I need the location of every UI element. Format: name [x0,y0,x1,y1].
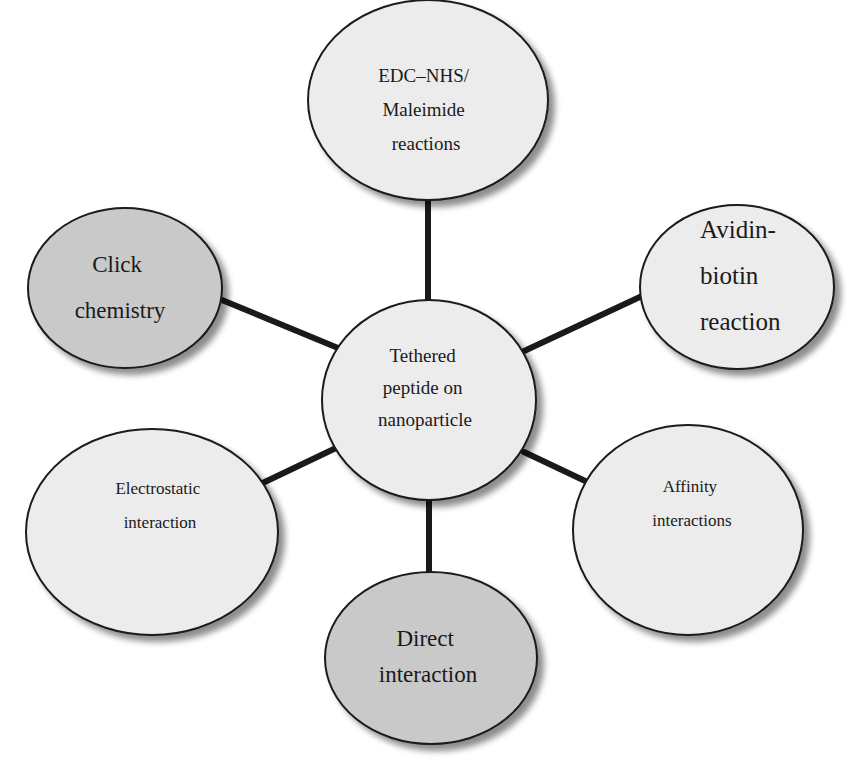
svg-text:EDC–NHS/ Maleimide: EDC–NHS/ Maleimide reactions [378,65,474,154]
node-click-ellipse [28,208,222,368]
node-edc-nhs-line-1: EDC–NHS/ [378,65,470,86]
node-affinity-line-1: Affinity [663,477,718,496]
node-electrostatic-line-1: Electrostatic [115,479,200,498]
hub-and-spoke-diagram: EDC–NHS/ Maleimide reactions Avidin- bio… [0,0,861,773]
node-electrostatic-line-2: interaction [124,513,197,532]
node-click: Click chemistry [28,208,222,368]
node-edc-nhs-line-3: reactions [392,133,461,154]
node-affinity: Affinity interactions [573,425,803,635]
svg-text:Tethered peptide on: Tethered peptide on nanoparticle [378,345,472,430]
node-direct-line-2: interaction [379,662,478,687]
node-click-line-2: chemistry [75,298,166,323]
node-avidin-biotin: Avidin- biotin reaction [640,205,834,369]
node-edc-nhs: EDC–NHS/ Maleimide reactions [308,0,548,200]
node-edc-nhs-line-2: Maleimide [382,99,464,120]
node-affinity-line-2: interactions [652,511,731,530]
connector-click [222,300,338,348]
node-avidin-biotin-line-3: reaction [700,308,781,335]
center-node: Tethered peptide on nanoparticle [322,300,536,500]
node-direct: Direct interaction [325,572,537,744]
connector-avidin-biotin [522,296,642,352]
center-node-line-2: peptide on [383,377,463,398]
center-node-ellipse [322,300,536,500]
center-node-line-1: Tethered [390,345,457,366]
node-direct-ellipse [325,572,537,744]
node-click-line-1: Click [92,252,142,277]
center-node-line-3: nanoparticle [378,409,472,430]
node-avidin-biotin-line-1: Avidin- [700,216,776,243]
node-direct-line-1: Direct [396,626,454,651]
node-electrostatic-ellipse [26,429,278,635]
node-affinity-ellipse [573,425,803,635]
node-avidin-biotin-line-2: biotin [700,262,759,289]
node-electrostatic: Electrostatic interaction [26,429,278,635]
